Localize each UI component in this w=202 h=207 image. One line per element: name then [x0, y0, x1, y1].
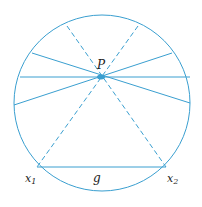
circle-diagram: P x1 x2 g — [0, 0, 202, 207]
label-p: P — [96, 58, 106, 72]
label-g: g — [93, 171, 101, 185]
point-p — [97, 75, 105, 80]
circle — [14, 15, 190, 191]
dashed-lines — [37, 26, 166, 167]
label-x1: x1 — [25, 172, 36, 186]
label-x2: x2 — [167, 172, 178, 186]
